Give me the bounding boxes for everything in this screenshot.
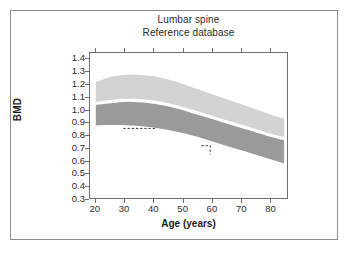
chart-plot-svg: [90, 53, 287, 198]
x-tick-label: 50: [171, 203, 195, 214]
y-tick-label: 0.6: [59, 156, 85, 165]
chart-subtitle: Reference database: [89, 26, 288, 39]
y-tick-label: 1.0: [59, 105, 85, 114]
y-tick-label: 0.3: [59, 194, 85, 203]
x-tick-label: 70: [229, 203, 253, 214]
band-group: [96, 75, 284, 163]
y-tick-label: 0.9: [59, 117, 85, 126]
chart-title-block: Lumbar spine Reference database: [89, 13, 288, 39]
x-tick-label: 60: [200, 203, 224, 214]
y-axis-tick-labels: 0.30.40.50.60.70.80.91.01.11.21.31.4: [55, 52, 85, 199]
x-tick-label: 80: [258, 203, 282, 214]
x-tick-label: 20: [83, 203, 107, 214]
figure-container: Lumbar spine Reference database 0.30.40.…: [0, 0, 350, 253]
y-tick-label: 1.1: [59, 92, 85, 101]
x-axis-tick-labels: 20304050607080: [89, 203, 299, 217]
y-tick-label: 0.4: [59, 181, 85, 190]
y-tick-label: 0.5: [59, 168, 85, 177]
dashed-corner-marker: [202, 146, 211, 155]
y-tick-label: 1.3: [59, 66, 85, 75]
chart-title: Lumbar spine: [89, 13, 288, 26]
x-tick-label: 40: [141, 203, 165, 214]
y-axis-label: BMD: [12, 80, 23, 140]
x-axis-label: Age (years): [89, 218, 288, 229]
x-tick-label: 30: [112, 203, 136, 214]
y-tick-label: 1.2: [59, 79, 85, 88]
y-tick-label: 0.8: [59, 130, 85, 139]
plot-area: [89, 52, 288, 199]
y-tick-label: 0.7: [59, 143, 85, 152]
y-tick-label: 1.4: [59, 53, 85, 62]
